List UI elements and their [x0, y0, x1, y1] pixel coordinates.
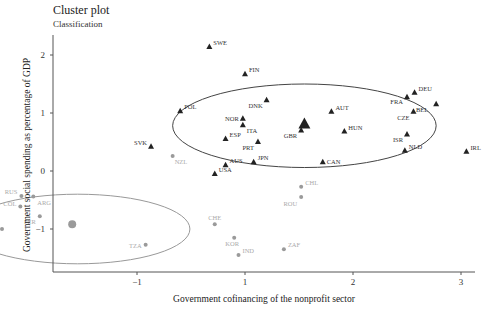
plot-area: SWEFINPOLDNKAUTNORITAESPPRTGBRHUNSVKUSAA… — [0, 39, 481, 269]
circle-marker-icon — [144, 243, 148, 247]
point-label: ESP — [230, 131, 242, 138]
point-label: NLD — [409, 143, 423, 150]
y-tick-label: 2 — [41, 50, 46, 60]
point-label: NOR — [225, 115, 239, 122]
point-label: SVK — [134, 139, 147, 146]
triangle-marker-icon — [223, 162, 229, 168]
x-tick-label: 3 — [459, 277, 464, 287]
point-label: SWE — [213, 39, 227, 46]
y-axis-label: Government social spending as percentage… — [22, 58, 32, 252]
triangle-marker-icon — [223, 136, 229, 142]
triangle-marker-icon — [242, 71, 248, 77]
point-label: ISR — [393, 136, 404, 143]
point-label: AUS — [230, 157, 243, 164]
point-label: ZAF — [288, 241, 301, 248]
circle-marker-icon — [213, 222, 217, 226]
point-label: PRT — [242, 144, 254, 151]
point-label: TZA — [129, 242, 142, 249]
point-label: CZE — [397, 114, 409, 121]
point-label: GBR — [284, 132, 298, 139]
point-label: RUS — [5, 188, 18, 195]
cluster-centroid-circle-icon — [68, 220, 76, 228]
point-label: AUT — [335, 104, 348, 111]
y-tick-label: −1 — [35, 224, 45, 234]
triangle-marker-icon — [255, 139, 261, 145]
x-tick-label: 2 — [351, 277, 356, 287]
series-2: NZLBRARUSARGCOLPERMEXUGAKENPHLPAKTZACHEK… — [0, 154, 318, 269]
chart-title: Cluster plot — [53, 3, 110, 17]
triangle-marker-icon — [148, 143, 154, 149]
triangle-marker-icon — [341, 128, 347, 134]
triangle-marker-icon — [320, 159, 326, 165]
triangle-marker-icon — [433, 101, 439, 107]
point-label: NZL — [175, 158, 188, 165]
triangle-marker-icon — [463, 148, 469, 154]
circle-marker-icon — [0, 227, 4, 231]
point-label: ARG — [37, 199, 51, 206]
y-tick-label: 0 — [41, 166, 46, 176]
triangle-marker-icon — [240, 122, 246, 128]
point-label: IRL — [470, 144, 481, 151]
cluster-centroid-triangle-icon — [298, 118, 310, 129]
triangle-marker-icon — [212, 170, 218, 176]
triangle-marker-icon — [328, 108, 334, 114]
point-label: FIN — [249, 66, 260, 73]
cluster-plot: Cluster plot Classification SWEFINPOLDNK… — [0, 0, 497, 318]
triangle-marker-icon — [240, 115, 246, 121]
triangle-marker-icon — [402, 147, 408, 153]
triangle-marker-icon — [251, 159, 257, 165]
circle-marker-icon — [299, 185, 303, 189]
circle-marker-icon — [237, 253, 241, 257]
y-tick-label: 1 — [41, 108, 46, 118]
x-tick-label: −1 — [132, 277, 142, 287]
point-label: HUN — [348, 124, 362, 131]
point-label: IND — [243, 247, 255, 254]
point-label: POL — [184, 103, 196, 110]
point-label: CHE — [208, 214, 221, 221]
triangle-marker-icon — [264, 97, 270, 103]
point-label: ITA — [247, 127, 258, 134]
chart-subtitle: Classification — [53, 19, 103, 29]
x-tick-label: 1 — [243, 277, 248, 287]
point-label: BEL — [416, 106, 428, 113]
point-label: ROU — [283, 200, 297, 207]
x-axis-ticks: −1123 — [132, 272, 464, 287]
triangle-marker-icon — [404, 94, 410, 100]
point-label: FRA — [390, 98, 403, 105]
series-1: SWEFINPOLDNKAUTNORITAESPPRTGBRHUNSVKUSAA… — [134, 39, 481, 176]
point-label: COL — [3, 200, 16, 207]
point-label: CHL — [305, 179, 318, 186]
point-label: KOR — [225, 240, 239, 247]
triangle-marker-icon — [404, 131, 410, 137]
circle-marker-icon — [38, 214, 42, 218]
point-label: DEU — [419, 85, 433, 92]
point-label: JPN — [258, 154, 269, 161]
point-label: CAN — [327, 158, 341, 165]
x-axis-label: Government cofinancing of the nonprofit … — [173, 294, 356, 304]
triangle-marker-icon — [412, 89, 418, 95]
point-label: DNK — [249, 102, 263, 109]
circle-marker-icon — [282, 247, 286, 251]
triangle-marker-icon — [206, 43, 212, 49]
y-axis-ticks: 210−1 — [35, 50, 53, 234]
circle-marker-icon — [299, 195, 303, 199]
